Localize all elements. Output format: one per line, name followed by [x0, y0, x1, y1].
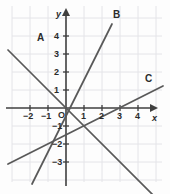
- y-tick-neg3: −3: [52, 158, 62, 167]
- x-tick-3: 3: [117, 112, 122, 121]
- y-tick-neg1: −1: [52, 122, 62, 131]
- y-tick-2: 2: [54, 68, 59, 77]
- line-label-a: A: [37, 33, 44, 43]
- line-label-c: C: [145, 74, 152, 84]
- graph-canvas: [0, 0, 170, 194]
- y-tick-neg2: −2: [52, 140, 62, 149]
- y-tick-1: 1: [54, 86, 59, 95]
- grid-lines: [12, 6, 162, 182]
- y-axis-label: y: [56, 10, 61, 19]
- x-axis-label: x: [152, 114, 157, 123]
- coordinate-plane-figure: A B C −2 −1 1 2 3 4 4 3 2 1 −1 −2 −3 O x…: [0, 0, 170, 194]
- line-b: [32, 24, 112, 184]
- x-tick-4: 4: [135, 112, 140, 121]
- plotted-lines: [8, 24, 163, 194]
- y-tick-4: 4: [54, 32, 59, 41]
- x-tick-neg1: −1: [41, 112, 51, 121]
- x-tick-1: 1: [81, 112, 86, 121]
- line-label-b: B: [113, 10, 120, 20]
- axes: [6, 12, 150, 186]
- x-tick-neg2: −2: [23, 112, 33, 121]
- y-axis-arrow: [62, 8, 70, 16]
- x-tick-2: 2: [99, 112, 104, 121]
- x-axis-arrow: [150, 104, 158, 112]
- line-c: [8, 86, 163, 164]
- y-tick-3: 3: [54, 50, 59, 59]
- origin-label: O: [58, 111, 65, 120]
